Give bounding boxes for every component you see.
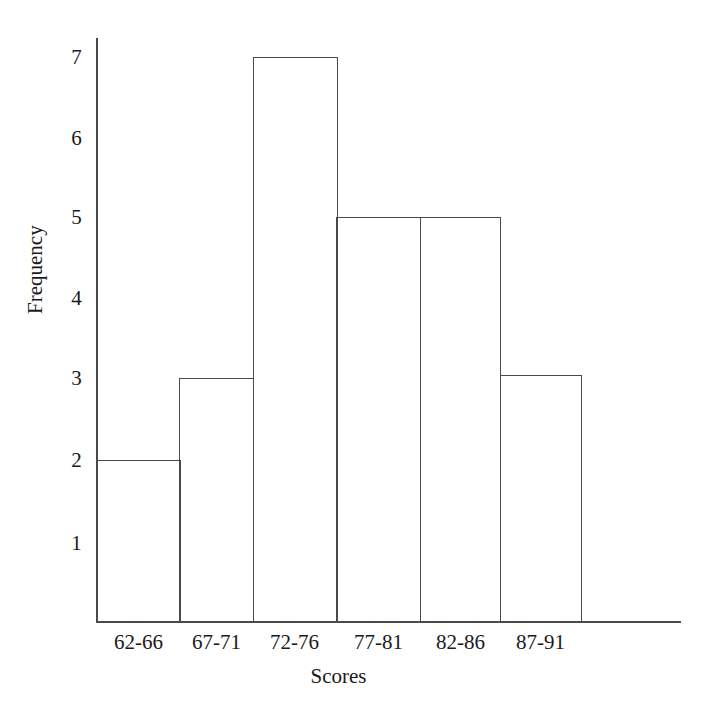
x-axis-title: Scores [96,664,581,688]
x-axis-tick-labels: 62-66 67-71 72-76 77-81 82-86 87-91 [0,0,709,707]
y-axis-title: Frequency [22,288,48,314]
x-tick-label-87-91: 87-91 [488,630,593,654]
histogram-chart: 7 6 5 4 3 2 1 62-66 67-71 72-76 77-81 82… [0,0,709,707]
